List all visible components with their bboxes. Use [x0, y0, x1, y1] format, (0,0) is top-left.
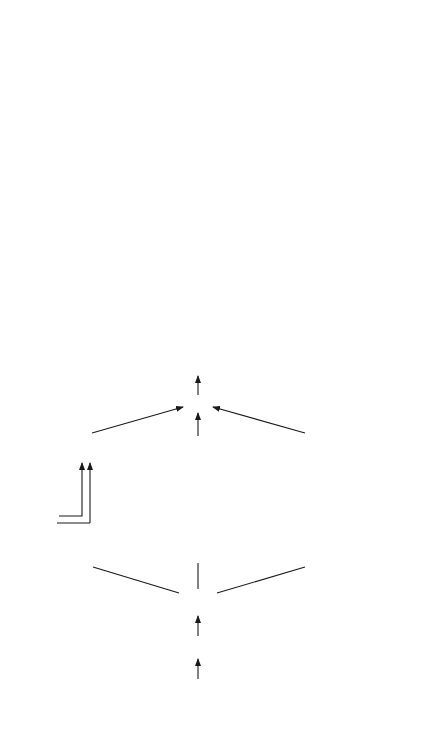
desaturase-pathways-figure — [0, 0, 436, 747]
connector-lines — [0, 0, 436, 747]
